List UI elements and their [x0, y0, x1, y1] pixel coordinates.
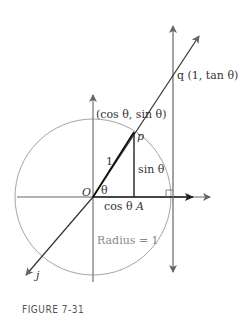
label-radius: Radius = 1: [97, 234, 159, 247]
label-p-coords: (cos θ, sin θ): [96, 108, 167, 121]
unit-circle-diagram: q (1, tan θ) (cos θ, sin θ) p 1 sin θ O …: [0, 0, 243, 324]
label-cos: cos θ: [104, 200, 133, 213]
right-angle-marker: [166, 190, 173, 197]
label-sin: sin θ: [138, 163, 165, 176]
label-q: q (1, tan θ): [177, 69, 238, 82]
label-A: A: [135, 200, 144, 213]
figure-caption: FIGURE 7-31: [22, 304, 84, 316]
line-j-lower: [26, 197, 93, 275]
label-p: p: [137, 130, 144, 143]
label-angle: θ: [101, 184, 108, 197]
label-origin: O: [82, 186, 91, 199]
hypotenuse-op: [93, 132, 134, 197]
label-hypotenuse: 1: [106, 155, 113, 168]
label-j: j: [33, 269, 40, 282]
